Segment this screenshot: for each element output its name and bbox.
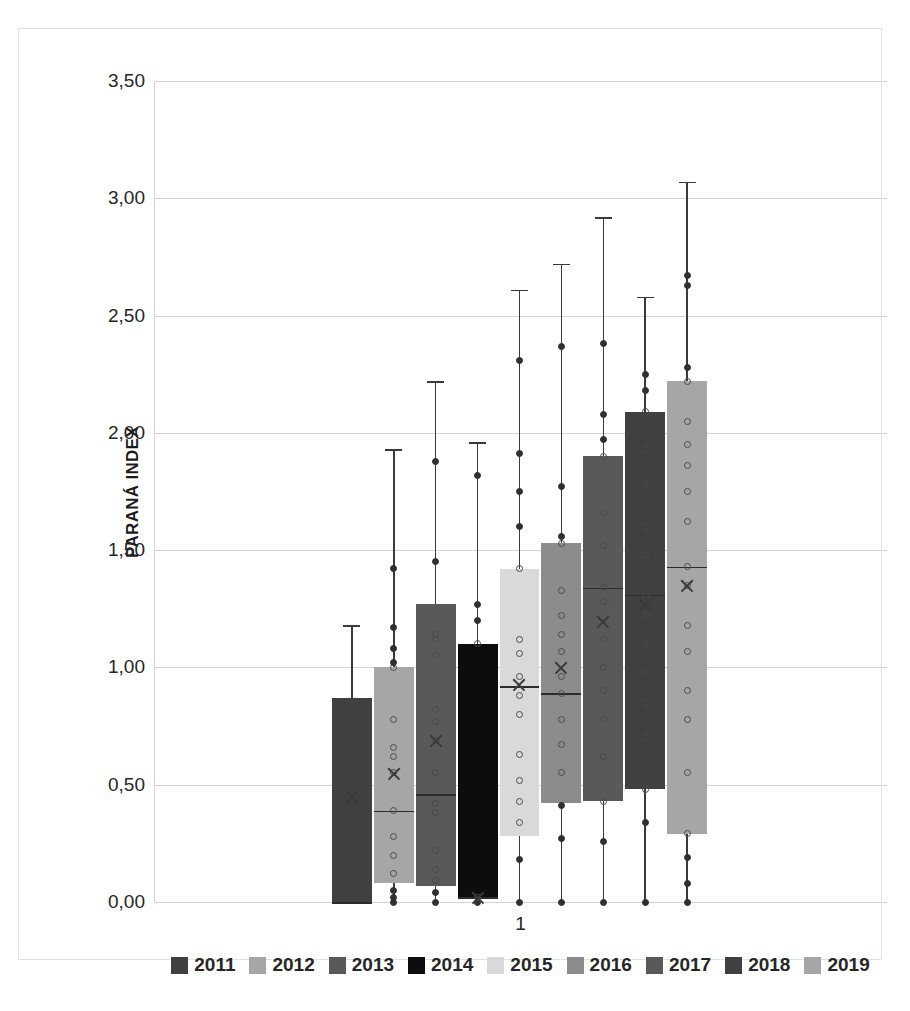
data-point xyxy=(516,692,523,699)
y-axis-tick-label: 2,00 xyxy=(108,422,145,444)
legend-item-2016[interactable]: 2016 xyxy=(567,954,632,976)
data-point xyxy=(684,378,691,385)
data-point xyxy=(432,889,439,896)
legend-item-2012[interactable]: 2012 xyxy=(249,954,314,976)
data-point xyxy=(516,636,523,643)
data-point xyxy=(390,744,397,751)
legend-label: 2018 xyxy=(748,954,790,976)
data-point xyxy=(558,835,565,842)
data-point xyxy=(684,282,691,289)
box-plot-2017[interactable] xyxy=(583,81,623,902)
legend-item-2015[interactable]: 2015 xyxy=(487,954,552,976)
data-point xyxy=(516,711,523,718)
mean-marker xyxy=(511,676,527,692)
data-point xyxy=(390,716,397,723)
data-point xyxy=(390,624,397,631)
data-point xyxy=(684,441,691,448)
chart-root: PARANÁ INDEX 3,503,002,502,001,501,000,5… xyxy=(0,0,910,1011)
box-plot-2012[interactable] xyxy=(374,81,414,902)
data-point xyxy=(642,523,649,530)
mean-marker xyxy=(386,765,402,781)
legend-item-2017[interactable]: 2017 xyxy=(646,954,711,976)
legend-item-2014[interactable]: 2014 xyxy=(408,954,473,976)
legend-item-2018[interactable]: 2018 xyxy=(725,954,790,976)
data-point xyxy=(558,540,565,547)
data-point xyxy=(558,587,565,594)
box-plot-2019[interactable] xyxy=(667,81,707,902)
data-point xyxy=(684,854,691,861)
mean-marker xyxy=(637,596,653,612)
data-point xyxy=(684,687,691,694)
data-point xyxy=(642,612,649,619)
data-point xyxy=(516,819,523,826)
legend-swatch-icon xyxy=(646,957,663,974)
whisker-cap-upper xyxy=(553,264,570,266)
data-point xyxy=(516,899,523,906)
data-point xyxy=(600,411,607,418)
box-plot-2018[interactable] xyxy=(625,81,665,902)
data-point xyxy=(684,899,691,906)
data-point xyxy=(642,899,649,906)
box-plot-2016[interactable] xyxy=(541,81,581,902)
data-point xyxy=(684,418,691,425)
y-axis-tick-label: 1,00 xyxy=(108,656,145,678)
data-point xyxy=(684,648,691,655)
data-point xyxy=(516,523,523,530)
legend-swatch-icon xyxy=(329,957,346,974)
y-axis-tick-label: 1,50 xyxy=(108,539,145,561)
legend-item-2011[interactable]: 2011 xyxy=(171,954,235,976)
legend-swatch-icon xyxy=(725,957,742,974)
whisker-cap-upper xyxy=(595,217,612,219)
box-body xyxy=(458,644,498,897)
x-axis-label: 1 xyxy=(154,913,887,935)
data-point xyxy=(684,880,691,887)
y-axis-tick-label: 0,00 xyxy=(108,891,145,913)
data-point xyxy=(600,664,607,671)
legend-label: 2017 xyxy=(669,954,711,976)
whisker-cap-upper xyxy=(679,182,696,184)
data-point xyxy=(558,533,565,540)
chart-frame: PARANÁ INDEX 3,503,002,502,001,501,000,5… xyxy=(18,28,882,960)
data-point xyxy=(432,458,439,465)
data-point xyxy=(642,786,649,793)
data-point xyxy=(432,558,439,565)
data-point xyxy=(516,650,523,657)
legend-label: 2012 xyxy=(272,954,314,976)
box-plot-2015[interactable] xyxy=(500,81,540,902)
box-plot-2014[interactable] xyxy=(458,81,498,902)
legend-swatch-icon xyxy=(567,957,584,974)
data-point xyxy=(600,899,607,906)
box-plot-2013[interactable] xyxy=(416,81,456,902)
data-point xyxy=(558,483,565,490)
mean-marker xyxy=(679,577,695,593)
data-point xyxy=(390,565,397,572)
box-body xyxy=(500,569,540,836)
box-plot-2011[interactable] xyxy=(332,81,372,902)
whisker-lower xyxy=(686,834,687,902)
mean-marker xyxy=(428,732,444,748)
data-point xyxy=(684,716,691,723)
data-point xyxy=(600,636,607,643)
legend-item-2013[interactable]: 2013 xyxy=(329,954,394,976)
mean-marker xyxy=(553,659,569,675)
data-point xyxy=(684,830,691,837)
whisker-lower xyxy=(603,801,604,902)
y-axis-tick-label: 0,50 xyxy=(108,774,145,796)
legend-swatch-icon xyxy=(249,957,266,974)
whisker-lower xyxy=(561,803,562,902)
data-point xyxy=(558,802,565,809)
data-point xyxy=(474,617,481,624)
legend-label: 2019 xyxy=(827,954,869,976)
legend-item-2019[interactable]: 2019 xyxy=(804,954,869,976)
legend-swatch-icon xyxy=(171,957,188,974)
legend-label: 2015 xyxy=(510,954,552,976)
data-point xyxy=(684,622,691,629)
data-point xyxy=(684,563,691,570)
whisker-upper xyxy=(561,264,562,543)
mean-marker xyxy=(344,788,360,804)
whisker-lower xyxy=(519,836,520,902)
whisker-cap-upper xyxy=(343,625,360,627)
data-point xyxy=(642,481,649,488)
y-axis-tick-label: 3,50 xyxy=(108,70,145,92)
data-point xyxy=(642,551,649,558)
